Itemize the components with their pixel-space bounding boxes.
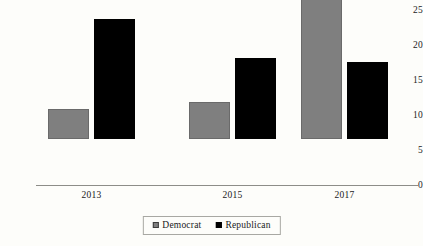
bar-republican-2013 [94, 19, 135, 139]
y-axis-tick-label: 15 [395, 75, 423, 85]
y-axis-tick-label: 20 [395, 40, 423, 50]
bar-democrat-2015 [189, 102, 230, 139]
y-axis-tick-label: 5 [395, 145, 423, 155]
bar-democrat-2017 [301, 0, 342, 139]
legend-item-democrat[interactable]: Democrat [152, 220, 201, 230]
x-axis-tick-label: 2017 [300, 190, 390, 200]
black-square-marker [215, 222, 221, 228]
x-axis-tick-label: 2013 [47, 190, 137, 200]
chart-legend: DemocratRepublican [142, 216, 280, 235]
legend-item-label: Democrat [162, 220, 201, 230]
x-axis-tick-label: 2015 [188, 190, 278, 200]
bar-chart-figure: 0510152025 201320152017 DemocratRepublic… [0, 0, 423, 246]
y-axis-tick-label: 25 [395, 5, 423, 15]
plot-area: 0510152025 201320152017 [0, 0, 423, 200]
legend-item-label: Republican [225, 220, 270, 230]
y-axis-tick-label: 10 [395, 110, 423, 120]
bar-democrat-2013 [48, 109, 89, 139]
legend-item-republican[interactable]: Republican [215, 220, 270, 230]
bar-republican-2015 [235, 58, 276, 139]
gray-square-marker [152, 222, 158, 228]
x-axis-baseline [36, 185, 418, 186]
bar-republican-2017 [347, 62, 388, 139]
